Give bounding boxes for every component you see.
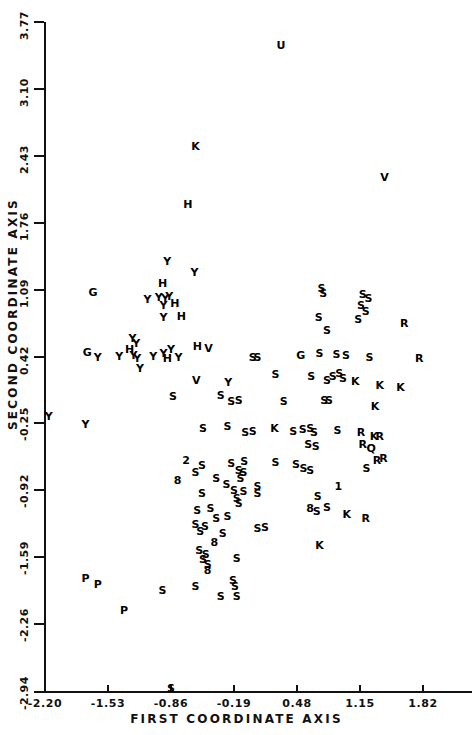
- data-point-y: Y: [149, 350, 157, 361]
- data-point-k: K: [371, 401, 380, 412]
- data-point-h: H: [158, 277, 167, 288]
- scatter-plot-figure: 3.773.102.431.761.090.42-0.25-0.92-1.59-…: [0, 0, 473, 735]
- data-point-y: Y: [159, 299, 167, 310]
- data-point-h: H: [183, 198, 192, 209]
- data-point-s: S: [261, 522, 269, 533]
- data-point-s: S: [280, 396, 288, 407]
- data-point-8: 8: [204, 565, 212, 576]
- data-point-s: S: [316, 347, 324, 358]
- data-point-s: S: [289, 426, 297, 437]
- data-point-y: Y: [224, 377, 232, 388]
- data-point-s: S: [193, 505, 201, 516]
- data-point-k: K: [396, 382, 405, 393]
- data-point-s: S: [339, 373, 347, 384]
- data-point-8: 8: [210, 537, 218, 548]
- data-point-s: S: [167, 683, 175, 694]
- data-point-s: S: [249, 426, 257, 437]
- data-point-s: S: [235, 395, 243, 406]
- data-point-s: S: [271, 457, 279, 468]
- data-point-s: S: [196, 526, 204, 537]
- data-point-g: G: [83, 346, 92, 357]
- data-point-h: H: [193, 340, 202, 351]
- data-point-v: V: [380, 171, 389, 182]
- data-point-2: 2: [182, 455, 190, 466]
- data-point-y: Y: [191, 266, 199, 277]
- data-point-s: S: [325, 395, 333, 406]
- data-point-k: K: [315, 540, 324, 551]
- data-point-s: S: [306, 465, 314, 476]
- data-point-h: H: [163, 353, 172, 364]
- data-point-r: R: [361, 513, 369, 524]
- data-point-s: S: [159, 585, 167, 596]
- data-point-y: Y: [175, 351, 183, 362]
- data-point-s: S: [313, 506, 321, 517]
- data-point-s: S: [254, 352, 262, 363]
- data-point-s: S: [314, 491, 322, 502]
- data-point-r: R: [359, 439, 367, 450]
- data-point-s: S: [217, 390, 225, 401]
- data-point-h: H: [177, 310, 186, 321]
- data-points-layer: UKVHYYHGYYYYHYSSSSSSSSHYSRYYGYYYYYHYYHYH…: [0, 0, 473, 735]
- data-point-g: G: [296, 349, 305, 360]
- data-point-s: S: [219, 528, 227, 539]
- data-point-s: S: [364, 292, 372, 303]
- data-point-y: Y: [163, 255, 171, 266]
- data-point-s: S: [307, 371, 315, 382]
- data-point-s: S: [191, 581, 199, 592]
- data-point-s: S: [315, 311, 323, 322]
- data-point-y: Y: [159, 311, 167, 322]
- data-point-s: S: [212, 473, 220, 484]
- data-point-u: U: [277, 39, 286, 50]
- data-point-s: S: [271, 369, 279, 380]
- data-point-s: S: [223, 511, 231, 522]
- data-point-s: S: [191, 467, 199, 478]
- data-point-s: S: [233, 553, 241, 564]
- data-point-q: Q: [367, 443, 376, 454]
- data-point-y: Y: [45, 411, 53, 422]
- data-point-s: S: [319, 287, 327, 298]
- data-point-r: R: [415, 353, 423, 364]
- data-point-s: S: [212, 513, 220, 524]
- data-point-h: H: [125, 343, 134, 354]
- data-point-s: S: [217, 591, 225, 602]
- data-point-y: Y: [81, 419, 89, 430]
- data-point-h: H: [170, 297, 179, 308]
- data-point-1: 1: [335, 481, 343, 492]
- data-point-p: P: [120, 605, 128, 616]
- data-point-s: S: [312, 441, 320, 452]
- data-point-s: S: [254, 488, 262, 499]
- data-point-s: S: [223, 421, 231, 432]
- data-point-k: K: [270, 423, 279, 434]
- data-point-s: S: [363, 463, 371, 474]
- data-point-s: S: [237, 473, 245, 484]
- data-point-s: S: [365, 351, 373, 362]
- data-point-s: S: [323, 324, 331, 335]
- data-point-s: S: [362, 305, 370, 316]
- data-point-s: S: [342, 349, 350, 360]
- data-point-s: S: [333, 348, 341, 359]
- data-point-y: Y: [136, 363, 144, 374]
- data-point-s: S: [169, 391, 177, 402]
- data-point-y: Y: [144, 293, 152, 304]
- data-point-s: S: [235, 498, 243, 509]
- data-point-p: P: [94, 579, 102, 590]
- data-point-y: Y: [94, 351, 102, 362]
- data-point-s: S: [233, 591, 241, 602]
- data-point-r: R: [400, 317, 408, 328]
- data-point-v: V: [204, 342, 213, 353]
- data-point-k: K: [343, 509, 352, 520]
- data-point-s: S: [199, 423, 207, 434]
- data-point-r: R: [379, 453, 387, 464]
- data-point-k: K: [375, 380, 384, 391]
- data-point-s: S: [354, 313, 362, 324]
- data-point-r: R: [375, 431, 383, 442]
- data-point-s: S: [333, 425, 341, 436]
- data-point-y: Y: [115, 350, 123, 361]
- data-point-8: 8: [174, 475, 182, 486]
- data-point-s: S: [310, 427, 318, 438]
- data-point-k: K: [191, 140, 200, 151]
- data-point-g: G: [88, 286, 97, 297]
- data-point-v: V: [192, 375, 201, 386]
- data-point-k: K: [351, 376, 360, 387]
- data-point-s: S: [198, 488, 206, 499]
